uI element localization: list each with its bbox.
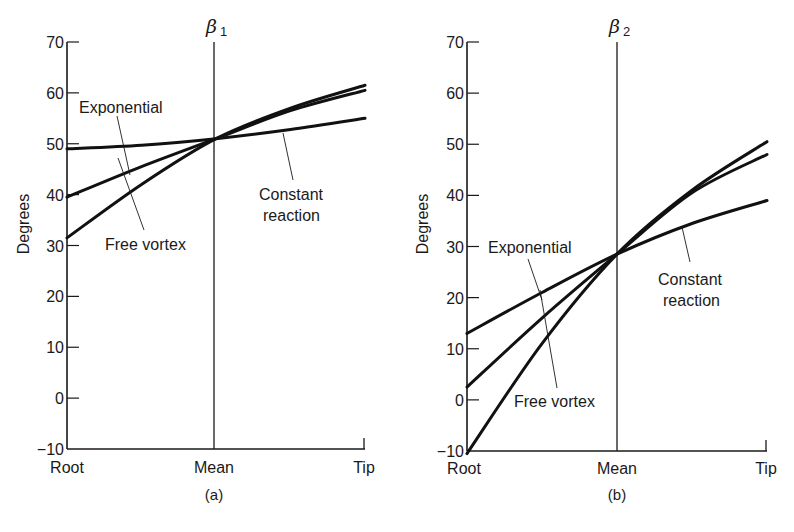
- y-tick-label: 40: [446, 187, 464, 204]
- y-ticks: 706050403020100−10: [37, 34, 79, 458]
- y-axis-label: Degrees: [414, 194, 431, 254]
- caption-b: (b): [608, 486, 626, 503]
- label-constant-reaction-1: Constant: [259, 186, 324, 203]
- label-exponential: Exponential: [79, 99, 163, 116]
- y-tick-label: 40: [46, 187, 64, 204]
- leader-constant-reaction: [283, 133, 293, 180]
- y-tick-label: 0: [55, 390, 64, 407]
- y-tick-label: −10: [437, 443, 464, 460]
- beta2-title: β2: [608, 15, 630, 39]
- leader-free-vortex: [540, 290, 557, 388]
- label-constant-reaction-1: Constant: [658, 271, 723, 288]
- y-tick-label: 30: [46, 238, 64, 255]
- y-tick-label: 60: [446, 85, 464, 102]
- y-tick-label: 20: [46, 288, 64, 305]
- label-constant-reaction-2: reaction: [663, 292, 720, 309]
- y-tick-label: −10: [37, 441, 64, 458]
- y-tick-label: 30: [446, 239, 464, 256]
- x-label-tip: Tip: [353, 459, 375, 476]
- y-tick-label: 70: [446, 34, 464, 51]
- x-label-mean: Mean: [597, 460, 637, 477]
- y-tick-label: 0: [455, 392, 464, 409]
- y-ticks: 706050403020100−10: [437, 34, 479, 460]
- x-label-mean: Mean: [194, 459, 234, 476]
- leader-constant-reaction: [682, 227, 690, 262]
- label-free-vortex: Free vortex: [514, 393, 595, 410]
- label-exponential: Exponential: [488, 239, 572, 256]
- y-tick-label: 70: [46, 34, 64, 51]
- chart-panel-a: 706050403020100−10 β1 Degrees Exponentia…: [15, 15, 375, 503]
- label-free-vortex: Free vortex: [105, 236, 186, 253]
- y-axis-label: Degrees: [15, 194, 32, 254]
- x-label-tip: Tip: [755, 460, 777, 477]
- x-label-root: Root: [50, 459, 84, 476]
- y-tick-label: 10: [446, 341, 464, 358]
- label-constant-reaction-2: reaction: [263, 207, 320, 224]
- y-tick-label: 60: [46, 85, 64, 102]
- beta1-title: β1: [205, 15, 227, 39]
- y-tick-label: 50: [46, 136, 64, 153]
- y-tick-label: 50: [446, 136, 464, 153]
- y-tick-label: 10: [46, 339, 64, 356]
- x-label-root: Root: [447, 460, 481, 477]
- caption-a: (a): [205, 486, 223, 503]
- chart-panel-b: 706050403020100−10 β2 Degrees Exponentia…: [414, 15, 777, 503]
- figure: 706050403020100−10 β1 Degrees Exponentia…: [0, 0, 794, 532]
- leader-exponential: [528, 259, 542, 300]
- y-tick-label: 20: [446, 290, 464, 307]
- curve-constant-reaction: [67, 118, 365, 149]
